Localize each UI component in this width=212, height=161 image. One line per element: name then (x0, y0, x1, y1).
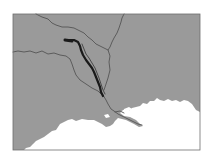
river-map (0, 0, 212, 161)
highlighted-river-head (65, 40, 72, 41)
